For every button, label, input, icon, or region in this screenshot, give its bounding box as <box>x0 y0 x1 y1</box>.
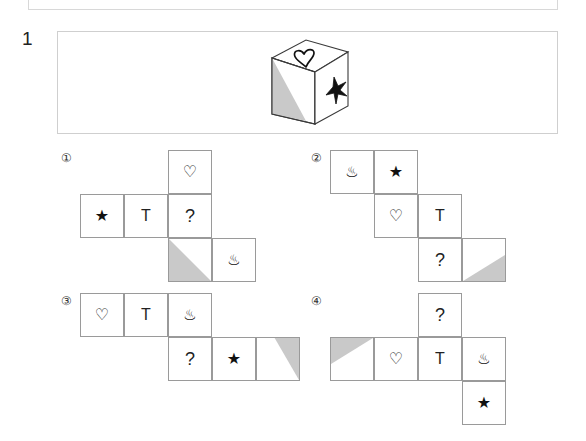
option-1-cell: ♨ <box>212 238 256 282</box>
option-2-cell: T <box>418 194 462 238</box>
option-4-cell: ♡ <box>374 337 418 381</box>
star-icon: ★ <box>227 351 241 367</box>
star-icon: ★ <box>95 208 109 224</box>
cube-figure <box>258 36 362 128</box>
shaded-triangle-icon <box>463 239 505 281</box>
option-1-cell: ♡ <box>168 150 212 194</box>
option-2-cell: ♡ <box>374 194 418 238</box>
letter-t-label: T <box>141 307 151 323</box>
onsen-icon: ♨ <box>227 253 240 268</box>
option-3-cell <box>256 337 300 381</box>
option-2-cell: ★ <box>374 150 418 194</box>
shaded-triangle-icon <box>257 338 299 380</box>
question-number: 1 <box>22 28 33 50</box>
option-3-label: ③ <box>58 293 74 309</box>
heart-icon: ♡ <box>95 307 109 323</box>
onsen-icon: ♨ <box>477 352 490 367</box>
top-partial-panel <box>28 0 558 10</box>
star-icon: ★ <box>477 395 491 411</box>
shaded-triangle-icon <box>169 239 211 281</box>
option-1-label: ① <box>58 150 74 166</box>
option-2-label: ② <box>308 150 324 166</box>
option-2-cell: ? <box>418 238 462 282</box>
heart-icon: ♡ <box>389 208 403 224</box>
option-4-cell: ★ <box>462 381 506 425</box>
option-4-cell: T <box>418 337 462 381</box>
question-mark-label: ? <box>435 306 445 324</box>
option-3-cell: ★ <box>212 337 256 381</box>
option-3-cell: T <box>124 293 168 337</box>
question-mark-label: ? <box>435 251 445 269</box>
option-4-cell: ♨ <box>462 337 506 381</box>
onsen-icon: ♨ <box>183 308 196 323</box>
option-2-cell: ♨ <box>330 150 374 194</box>
cube-svg <box>258 36 362 128</box>
star-icon: ★ <box>389 164 403 180</box>
option-1-cell <box>168 238 212 282</box>
option-4-cell: ? <box>418 293 462 337</box>
option-3-cell: ? <box>168 337 212 381</box>
shaded-triangle-icon <box>331 338 373 380</box>
letter-t-label: T <box>141 208 151 224</box>
option-3-cell: ♡ <box>80 293 124 337</box>
onsen-icon: ♨ <box>345 165 358 180</box>
option-1-cell: T <box>124 194 168 238</box>
question-mark-label: ? <box>185 207 195 225</box>
letter-t-label: T <box>435 351 445 367</box>
question-mark-label: ? <box>185 350 195 368</box>
option-4-cell <box>330 337 374 381</box>
heart-icon: ♡ <box>389 351 403 367</box>
option-1-cell: ★ <box>80 194 124 238</box>
heart-icon: ♡ <box>183 164 197 180</box>
option-3-cell: ♨ <box>168 293 212 337</box>
option-4-label: ④ <box>308 293 324 309</box>
option-1-cell: ? <box>168 194 212 238</box>
option-2-cell <box>462 238 506 282</box>
letter-t-label: T <box>435 208 445 224</box>
